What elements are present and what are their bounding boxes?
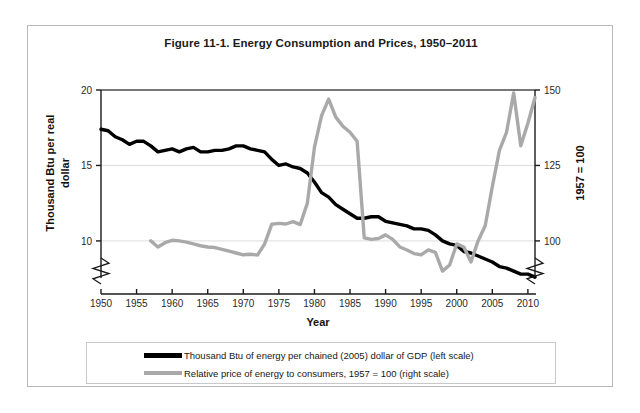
figure-frame: Figure 11-1. Energy Consumption and Pric…	[27, 25, 613, 387]
legend-item-energy-intensity: Thousand Btu of energy per chained (2005…	[87, 347, 557, 363]
svg-text:1970: 1970	[232, 298, 255, 309]
left-axis-title-line-1: Thousand Btu per real	[44, 115, 56, 232]
svg-text:1955: 1955	[125, 298, 148, 309]
gridlines-group	[101, 165, 535, 240]
x-axis-title: Year	[306, 316, 330, 328]
svg-text:1975: 1975	[268, 298, 291, 309]
legend-label-energy-intensity: Thousand Btu of energy per chained (2005…	[184, 350, 474, 361]
x-axis-ticks-group: 1950195519601965197019751980198519901995…	[90, 289, 540, 309]
chart-plot-area: 101520 100125150 19501955196019651970197…	[28, 26, 614, 388]
svg-text:1960: 1960	[161, 298, 184, 309]
svg-text:100: 100	[544, 236, 561, 247]
svg-text:2005: 2005	[481, 298, 504, 309]
right-axis-ticks-group: 100125150	[535, 85, 561, 247]
plot-frame-group	[101, 90, 535, 278]
svg-text:2000: 2000	[446, 298, 469, 309]
legend-label-relative-price: Relative price of energy to consumers, 1…	[184, 368, 449, 379]
svg-text:2010: 2010	[517, 298, 540, 309]
axis-break-group	[93, 258, 543, 284]
left-axis-ticks-group: 101520	[81, 85, 101, 247]
svg-text:20: 20	[81, 85, 93, 96]
left-axis-title-line-2: dollar	[59, 157, 71, 188]
svg-text:1965: 1965	[197, 298, 220, 309]
series-line-relative-price	[151, 93, 535, 271]
svg-text:1990: 1990	[374, 298, 397, 309]
svg-text:15: 15	[81, 160, 93, 171]
svg-text:10: 10	[81, 236, 93, 247]
chart-legend: Thousand Btu of energy per chained (2005…	[86, 342, 556, 384]
legend-swatch-gray-line	[144, 371, 182, 375]
right-axis-title: 1957 = 100	[574, 145, 586, 200]
svg-text:1980: 1980	[303, 298, 326, 309]
svg-text:150: 150	[544, 85, 561, 96]
legend-swatch-black-line	[144, 353, 182, 358]
svg-text:125: 125	[544, 160, 561, 171]
legend-item-relative-price: Relative price of energy to consumers, 1…	[87, 365, 557, 381]
svg-text:1995: 1995	[410, 298, 433, 309]
svg-text:1950: 1950	[90, 298, 113, 309]
svg-text:1985: 1985	[339, 298, 362, 309]
series-line-energy-intensity	[101, 129, 535, 277]
data-series-group	[101, 93, 535, 277]
